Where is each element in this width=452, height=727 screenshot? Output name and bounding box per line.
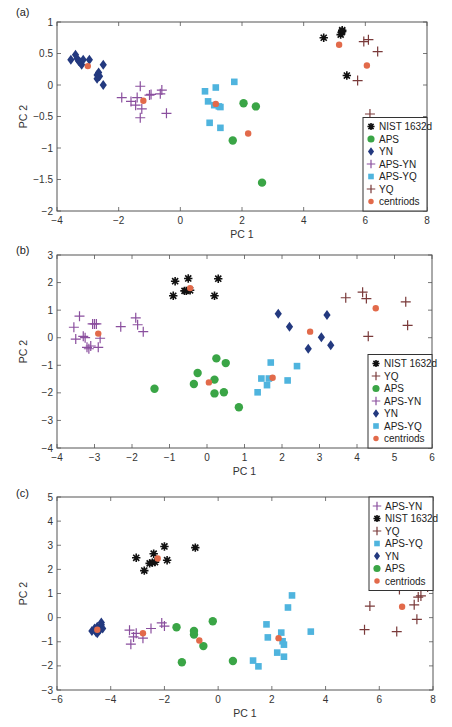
data-point xyxy=(190,630,198,638)
scatter-plot-c: −6−4−202468−3−2−1012345PC 1PC 2APS-YNNIS… xyxy=(0,0,452,727)
y-tick-label: 3 xyxy=(47,540,53,551)
y-tick-label: 0 xyxy=(47,612,53,623)
data-point xyxy=(172,623,180,631)
legend-marker-icon xyxy=(374,578,379,583)
data-point xyxy=(160,542,168,550)
legend-label: YN xyxy=(385,551,399,562)
x-tick-label: 8 xyxy=(430,694,436,705)
x-tick-label: −6 xyxy=(51,694,63,705)
data-point xyxy=(285,604,292,611)
legend: APS-YNNIST 1632dYQAPS-YQYNAPScentriods xyxy=(369,497,438,591)
x-axis-title: PC 1 xyxy=(233,707,257,719)
data-point xyxy=(196,637,202,643)
y-tick-label: −3 xyxy=(42,685,54,696)
legend-marker-icon xyxy=(373,515,380,522)
data-point xyxy=(163,556,171,564)
data-point xyxy=(308,628,315,635)
x-tick-label: 2 xyxy=(269,694,275,705)
data-point xyxy=(132,554,140,562)
legend-label: NIST 1632d xyxy=(385,513,438,524)
y-tick-label: 4 xyxy=(47,516,53,527)
legend-marker-icon xyxy=(373,565,380,572)
data-point xyxy=(281,653,288,660)
x-tick-label: 4 xyxy=(323,694,329,705)
data-point xyxy=(281,641,288,648)
data-point xyxy=(209,617,217,625)
data-point xyxy=(289,592,296,599)
y-axis-title: PC 2 xyxy=(17,582,29,606)
y-tick-label: −2 xyxy=(42,660,54,671)
legend-label: APS-YN xyxy=(385,501,422,512)
data-point xyxy=(140,630,146,636)
x-tick-label: −2 xyxy=(159,694,171,705)
data-point xyxy=(274,649,281,656)
legend-label: APS xyxy=(385,563,405,574)
y-tick-label: −1 xyxy=(42,636,54,647)
data-point xyxy=(275,635,281,641)
data-point xyxy=(178,658,186,666)
y-tick-label: 1 xyxy=(47,588,53,599)
data-point xyxy=(265,634,272,641)
data-point xyxy=(155,555,161,561)
data-point xyxy=(191,543,199,551)
legend-label: YQ xyxy=(385,526,400,537)
data-point xyxy=(278,629,285,636)
panel-c: (c) −6−4−202468−3−2−1012345PC 1PC 2APS-Y… xyxy=(0,0,452,727)
data-point xyxy=(399,604,405,610)
data-point xyxy=(94,626,100,632)
data-point xyxy=(229,657,237,665)
data-point xyxy=(250,657,257,664)
y-tick-label: 2 xyxy=(47,564,53,575)
x-tick-label: −4 xyxy=(105,694,117,705)
x-tick-label: 6 xyxy=(377,694,383,705)
data-point xyxy=(255,663,262,670)
legend-marker-icon xyxy=(374,541,380,547)
y-tick-label: 5 xyxy=(47,492,53,503)
x-tick-label: 0 xyxy=(215,694,221,705)
legend-label: centriods xyxy=(385,576,426,587)
legend-label: APS-YQ xyxy=(385,538,423,549)
data-point xyxy=(263,621,270,628)
data-point xyxy=(140,566,148,574)
